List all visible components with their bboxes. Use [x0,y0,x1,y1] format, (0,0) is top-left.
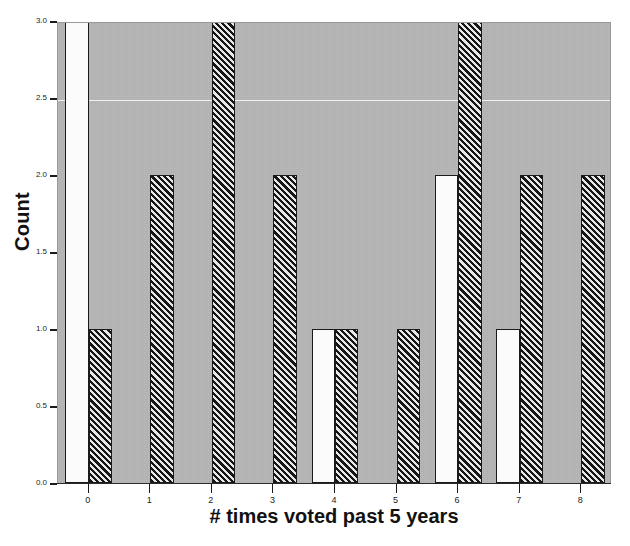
y-tick-label: 0.5 [36,401,47,410]
bar-hatched-1 [150,175,173,483]
bar-hatched-2 [212,22,235,483]
y-tick-label: 2.5 [36,93,47,102]
y-tick-mark [50,21,57,23]
x-tick-label: 0 [76,495,100,505]
y-tick-mark [50,252,57,254]
x-tick-label: 7 [507,495,531,505]
plot-area [57,22,611,484]
bar-hatched-4 [335,329,358,483]
y-tick-mark [50,329,57,331]
y-tick-mark [50,175,57,177]
bar-white-6 [435,175,458,483]
x-tick-mark [211,484,212,493]
y-tick-label: 1.5 [36,247,47,256]
y-tick-label: 1.0 [36,324,47,333]
x-tick-label: 3 [260,495,284,505]
x-tick-label: 5 [384,495,408,505]
x-tick-mark [272,484,273,493]
bar-hatched-6 [458,22,481,483]
x-tick-label: 6 [445,495,469,505]
x-tick-label: 4 [322,495,346,505]
y-tick-label: 3.0 [36,16,47,25]
bar-hatched-5 [397,329,420,483]
bar-white-4 [312,329,335,483]
bar-hatched-7 [520,175,543,483]
x-tick-label: 8 [568,495,592,505]
y-tick-mark [50,406,57,408]
x-tick-mark [396,484,397,493]
x-tick-mark [580,484,581,493]
y-tick-label: 0.0 [36,478,47,487]
x-tick-label: 1 [137,495,161,505]
x-tick-mark [334,484,335,493]
x-tick-mark [457,484,458,493]
bar-hatched-0 [89,329,112,483]
y-tick-mark [50,98,57,100]
gridline [58,100,610,101]
x-tick-mark [88,484,89,493]
x-tick-label: 2 [199,495,223,505]
x-tick-mark [519,484,520,493]
y-tick-mark [50,483,57,485]
bar-chart: Count 0.00.51.01.52.02.53.0 012345678 # … [0,0,630,546]
bar-white-0 [65,22,88,483]
y-axis-ticks: 0.00.51.01.52.02.53.0 [0,22,57,484]
bar-hatched-8 [581,175,604,483]
y-tick-label: 2.0 [36,170,47,179]
bar-white-7 [496,329,519,483]
bar-hatched-3 [273,175,296,483]
x-tick-mark [149,484,150,493]
x-axis-title: # times voted past 5 years [57,505,611,528]
